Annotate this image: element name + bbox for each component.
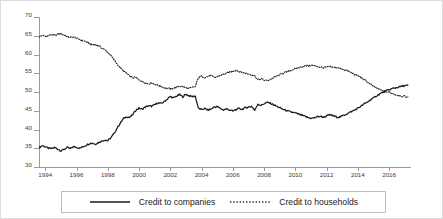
y-tick-label: 65: [25, 31, 32, 37]
x-tick-label: 2002: [156, 172, 184, 178]
line-credit-to-companies: [39, 85, 408, 152]
y-tick-label: 55: [25, 68, 32, 74]
x-tick-label: 2006: [219, 172, 247, 178]
x-tick-label: 2014: [344, 172, 372, 178]
x-tick-label: 1996: [63, 172, 91, 178]
y-tick-label: 40: [25, 125, 32, 131]
y-tick-label: 70: [25, 12, 32, 18]
y-tick-label: 50: [25, 87, 32, 93]
chart-figure: 706560555045403530 199419961998200020022…: [0, 0, 443, 219]
y-tick-label: 45: [25, 106, 32, 112]
x-tick-label: 2004: [188, 172, 216, 178]
legend-item-credit-to-households: Credit to households: [229, 198, 358, 207]
x-tick-label: 2016: [375, 172, 403, 178]
x-tick-label: 1994: [31, 172, 59, 178]
x-axis-line: [39, 167, 411, 168]
x-tick-label: 2012: [313, 172, 341, 178]
y-tick-label: 60: [25, 50, 32, 56]
legend-item-credit-to-companies: Credit to companies: [89, 198, 215, 207]
y-tick-label: 35: [25, 143, 32, 149]
series-canvas: [39, 17, 411, 167]
x-tick-label: 2010: [281, 172, 309, 178]
line-credit-to-households: [39, 33, 408, 97]
y-tick-label: 30: [25, 162, 32, 168]
y-tick-mark: [34, 167, 39, 168]
x-tick-label: 1998: [94, 172, 122, 178]
legend-label-credit-to-households: Credit to households: [279, 198, 358, 207]
x-tick-label: 2008: [250, 172, 278, 178]
legend-swatch-solid: [89, 198, 131, 206]
plot-area: [39, 17, 411, 167]
legend-swatch-dotted: [229, 198, 271, 206]
x-tick-label: 2000: [125, 172, 153, 178]
chart-legend: Credit to companies Credit to households: [61, 191, 386, 213]
legend-label-credit-to-companies: Credit to companies: [139, 198, 215, 207]
